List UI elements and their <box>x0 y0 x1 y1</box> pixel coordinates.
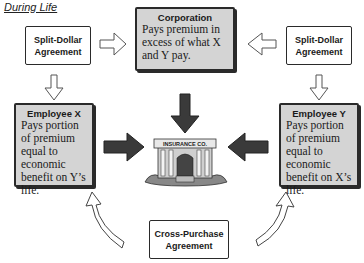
dark-arrow-right-icon <box>104 133 144 161</box>
outline-arrow-down-left-icon <box>45 75 63 100</box>
outline-arrow-left-icon <box>248 33 276 55</box>
insurance-company-building-icon: INSURANCE CO. <box>145 139 227 186</box>
curved-arrow-to-employee-y-icon <box>256 192 294 246</box>
outline-arrow-right-icon <box>100 33 126 55</box>
dark-arrow-left-icon <box>228 133 268 161</box>
outline-arrow-down-right-icon <box>310 75 328 100</box>
insurance-sign: INSURANCE CO. <box>163 141 207 147</box>
diagram-graphics: INSURANCE CO. <box>0 0 364 263</box>
dark-arrow-down-icon <box>171 94 199 133</box>
curved-arrow-to-employee-x-icon <box>86 192 124 248</box>
